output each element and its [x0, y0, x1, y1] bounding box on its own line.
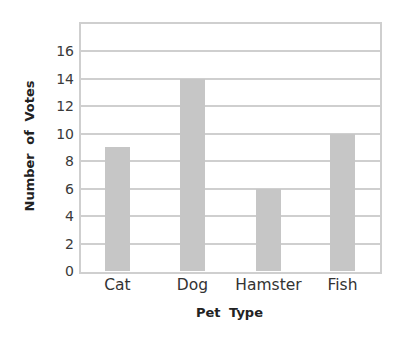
bar-fish	[330, 134, 355, 272]
bar-cat	[105, 147, 130, 271]
x-axis-title: Pet Type	[79, 305, 380, 320]
y-tick-label: 4	[44, 209, 74, 223]
x-tick-label: Fish	[303, 276, 383, 294]
y-tick-label: 10	[44, 127, 74, 141]
x-tick-label: Dog	[153, 276, 233, 294]
y-tick-label: 12	[44, 99, 74, 113]
y-tick-label: 8	[44, 154, 74, 168]
y-axis-title: Number of Votes	[22, 81, 37, 212]
bar-chart: 0246810121416 CatDogHamsterFish Pet Type…	[0, 0, 400, 340]
bar-dog	[180, 79, 205, 272]
x-tick-label: Hamster	[229, 276, 309, 294]
gridline	[79, 105, 380, 107]
x-tick-label: Cat	[78, 276, 158, 294]
bar-hamster	[256, 189, 281, 272]
y-tick-label: 2	[44, 237, 74, 251]
y-tick-label: 16	[44, 44, 74, 58]
y-tick-label: 0	[44, 264, 74, 278]
gridline	[79, 50, 380, 52]
gridline	[79, 78, 380, 80]
y-tick-label: 6	[44, 182, 74, 196]
y-tick-label: 14	[44, 72, 74, 86]
